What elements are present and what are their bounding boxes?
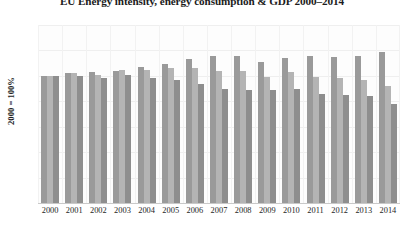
- x-tick-label: 2005: [159, 206, 183, 215]
- bar-group: [159, 25, 183, 203]
- bar: [150, 78, 156, 203]
- bar-group: [328, 25, 352, 203]
- bar: [294, 89, 300, 203]
- bar: [391, 104, 397, 203]
- x-tick-label: 2001: [62, 206, 86, 215]
- x-tick-label: 2004: [135, 206, 159, 215]
- bar-group: [183, 25, 207, 203]
- x-tick-label: 2003: [110, 206, 134, 215]
- plot-area: [38, 25, 400, 203]
- chart-figure: EU Energy intensity, energy consumption …: [0, 0, 404, 226]
- bar-group: [62, 25, 86, 203]
- bar-group: [110, 25, 134, 203]
- x-axis-line: [38, 203, 400, 204]
- bar-group: [135, 25, 159, 203]
- bar-group: [352, 25, 376, 203]
- x-tick-label: 2009: [255, 206, 279, 215]
- x-tick-label: 2010: [279, 206, 303, 215]
- y-axis-label: 2000 = 100%: [6, 71, 16, 131]
- bar: [270, 90, 276, 203]
- bar: [319, 94, 325, 203]
- bar: [174, 80, 180, 203]
- bar: [246, 90, 252, 203]
- chart-title: EU Energy intensity, energy consumption …: [0, 0, 404, 7]
- bar: [343, 95, 349, 203]
- bar-group: [255, 25, 279, 203]
- x-tick-label: 2000: [38, 206, 62, 215]
- bar: [53, 76, 59, 203]
- x-tick-label: 2008: [231, 206, 255, 215]
- bar: [77, 76, 83, 203]
- bar-group: [303, 25, 327, 203]
- x-tick-label: 2002: [86, 206, 110, 215]
- bar: [125, 75, 131, 203]
- x-tick-label: 2006: [183, 206, 207, 215]
- x-tick-label: 2012: [328, 206, 352, 215]
- bar-group: [86, 25, 110, 203]
- x-tick-label: 2011: [303, 206, 327, 215]
- bar-group: [207, 25, 231, 203]
- x-tick-label: 2014: [376, 206, 400, 215]
- bar: [198, 84, 204, 204]
- bar-group: [376, 25, 400, 203]
- bar: [222, 89, 228, 203]
- bar-group: [231, 25, 255, 203]
- bar: [101, 78, 107, 203]
- bar-group: [38, 25, 62, 203]
- x-gridline: [399, 25, 400, 203]
- bar: [367, 96, 373, 203]
- x-tick-label: 2007: [207, 206, 231, 215]
- bar-group: [279, 25, 303, 203]
- x-tick-label: 2013: [352, 206, 376, 215]
